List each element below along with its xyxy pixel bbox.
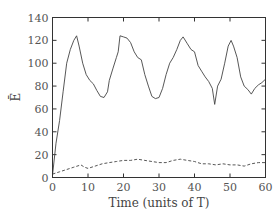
x-axis-title: Time (units of T) [108, 196, 209, 210]
x-tick-label: 60 [259, 181, 273, 194]
y-tick-label: 120 [28, 34, 49, 47]
x-tick-label: 30 [152, 181, 166, 194]
y-tick-label: 140 [28, 12, 49, 25]
x-tick-label: 10 [81, 181, 95, 194]
series-dashed-line [53, 159, 266, 174]
line-chart: 0102030405060020406080100120140 Time (un… [0, 0, 277, 213]
y-axis-title: Ē [8, 93, 23, 102]
y-tick-label: 0 [42, 172, 49, 185]
x-tick-label: 20 [117, 181, 131, 194]
x-tick-label: 50 [223, 181, 237, 194]
tick-labels: 0102030405060020406080100120140 [28, 12, 273, 194]
y-tick-label: 80 [35, 80, 49, 93]
x-tick-label: 40 [188, 181, 202, 194]
y-tick-label: 100 [28, 57, 49, 70]
series-solid-line [53, 36, 266, 175]
y-tick-label: 60 [35, 103, 49, 116]
y-tick-label: 40 [35, 126, 49, 139]
y-tick-label: 20 [35, 149, 49, 162]
x-tick-label: 0 [49, 181, 56, 194]
